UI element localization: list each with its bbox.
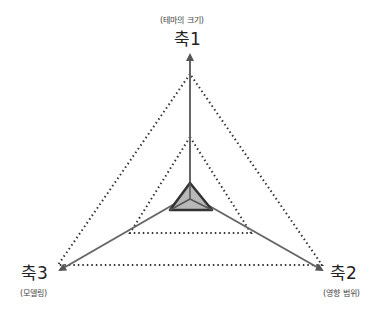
- axis2-subtitle: (영향 범위): [323, 287, 360, 298]
- axis1-subtitle: (테마의 크기): [160, 14, 204, 25]
- axis1-label: 축1: [174, 25, 201, 50]
- axis2-label: 축2: [330, 259, 357, 284]
- axis3-subtitle: (모델링): [20, 287, 47, 298]
- axis3-label: 축3: [21, 259, 48, 284]
